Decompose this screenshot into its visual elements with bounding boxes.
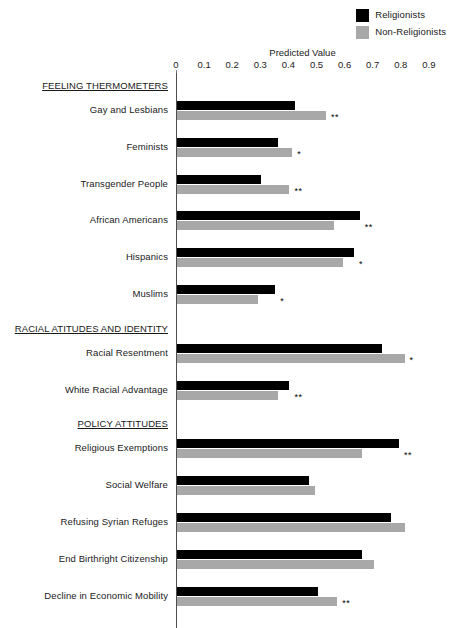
- category-label: African Americans: [90, 214, 168, 225]
- category-label: Social Welfare: [106, 479, 168, 490]
- legend-item-non-religionists: Non-Religionists: [356, 25, 446, 39]
- bar-non-religionists: [177, 111, 326, 120]
- bar-non-religionists: [177, 148, 292, 157]
- significance-marker: *: [280, 297, 284, 306]
- legend-item-religionists: Religionists: [356, 8, 446, 22]
- category-label: Gay and Lesbians: [90, 104, 168, 115]
- chart-row: Muslims*: [0, 284, 456, 321]
- x-tick-0-2: 0.2: [226, 59, 239, 70]
- bar-non-religionists: [177, 523, 405, 532]
- bar-religionists: [177, 138, 278, 147]
- bar-religionists: [177, 285, 275, 294]
- chart-legend: Religionists Non-Religionists: [356, 8, 446, 39]
- category-label: Transgender People: [80, 178, 168, 189]
- bar-non-religionists: [177, 258, 343, 267]
- bar-religionists: [177, 381, 289, 390]
- bar-non-religionists: [177, 597, 337, 606]
- bar-non-religionists: [177, 221, 334, 230]
- chart-row: Hispanics*: [0, 247, 456, 284]
- legend-label-religionists: Religionists: [375, 10, 425, 20]
- x-tick-0-7: 0.7: [366, 59, 379, 70]
- category-label: Religious Exemptions: [75, 442, 168, 453]
- x-tick-0-9: 0.9: [422, 59, 435, 70]
- bar-non-religionists: [177, 486, 315, 495]
- significance-marker: **: [331, 113, 339, 122]
- bar-non-religionists: [177, 449, 362, 458]
- bar-non-religionists: [177, 354, 405, 363]
- x-tick-0-1: 0.1: [197, 59, 210, 70]
- significance-marker: **: [294, 393, 302, 402]
- x-tick-0-4: 0.4: [282, 59, 295, 70]
- significance-marker: **: [365, 223, 373, 232]
- bar-religionists: [177, 550, 362, 559]
- bar-religionists: [177, 587, 318, 596]
- chart-row: End Birthright Citizenship: [0, 549, 456, 586]
- bar-religionists: [177, 513, 391, 522]
- category-label: Muslims: [132, 288, 168, 299]
- bar-religionists: [177, 344, 382, 353]
- category-label: Hispanics: [126, 251, 168, 262]
- significance-marker: **: [294, 187, 302, 196]
- bar-religionists: [177, 175, 261, 184]
- chart-row: Decline in Economic Mobility**: [0, 586, 456, 623]
- category-label: White Racial Advantage: [65, 384, 168, 395]
- bar-non-religionists: [177, 560, 374, 569]
- significance-marker: **: [404, 451, 412, 460]
- significance-marker: **: [342, 599, 350, 608]
- category-label: Racial Resentment: [86, 347, 168, 358]
- significance-marker: *: [410, 356, 414, 365]
- chart-row: Religious Exemptions**: [0, 438, 456, 475]
- category-label: Decline in Economic Mobility: [44, 590, 168, 601]
- category-label: Refusing Syrian Refuges: [61, 516, 168, 527]
- bar-non-religionists: [177, 185, 289, 194]
- section-heading-row: FEELING THERMOMETERS: [0, 78, 456, 100]
- chart-row: Racial Resentment*: [0, 343, 456, 380]
- bar-non-religionists: [177, 391, 278, 400]
- legend-label-non-religionists: Non-Religionists: [375, 27, 446, 37]
- chart-row: Gay and Lesbians**: [0, 100, 456, 137]
- significance-marker: *: [359, 260, 363, 269]
- x-tick-0-3: 0.3: [254, 59, 267, 70]
- section-heading-row: POLICY ATTITUDES: [0, 416, 456, 438]
- bar-religionists: [177, 248, 354, 257]
- bar-religionists: [177, 211, 360, 220]
- x-tick-0: 0: [173, 59, 178, 70]
- category-label: Feminists: [126, 141, 168, 152]
- chart-row: Feminists*: [0, 137, 456, 174]
- x-tick-0-6: 0.6: [338, 59, 351, 70]
- x-axis-tick-labels: 00.10.20.30.40.50.60.70.80.9: [0, 59, 456, 71]
- section-heading-label: POLICY ATTITUDES: [78, 418, 168, 429]
- x-tick-0-8: 0.8: [394, 59, 407, 70]
- x-axis-title: Predicted Value: [176, 47, 429, 58]
- x-tick-mark-0: [176, 70, 177, 73]
- legend-swatch-religionists: [356, 9, 369, 22]
- x-tick-0-5: 0.5: [310, 59, 323, 70]
- bar-religionists: [177, 476, 309, 485]
- section-heading-label: FEELING THERMOMETERS: [42, 80, 168, 91]
- section-heading-label: RACIAL ATITUDES AND IDENTITY: [15, 323, 168, 334]
- section-heading-row: RACIAL ATITUDES AND IDENTITY: [0, 321, 456, 343]
- chart-row: Social Welfare: [0, 475, 456, 512]
- bar-religionists: [177, 101, 295, 110]
- chart-row: White Racial Advantage**: [0, 380, 456, 417]
- chart-row: Transgender People**: [0, 174, 456, 211]
- bar-non-religionists: [177, 295, 258, 304]
- significance-marker: *: [297, 150, 301, 159]
- bar-religionists: [177, 439, 399, 448]
- chart-row: Refusing Syrian Refuges: [0, 512, 456, 549]
- category-label: End Birthright Citizenship: [59, 553, 168, 564]
- chart-row: African Americans**: [0, 210, 456, 247]
- legend-swatch-non-religionists: [356, 26, 369, 39]
